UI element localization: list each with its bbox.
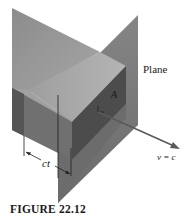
plane-label: Plane [143, 63, 168, 75]
velocity-arrowhead-icon [170, 142, 180, 149]
figure-caption: FIGURE 22.12 [10, 203, 86, 215]
box-front-left-dark-strip [12, 88, 24, 136]
wave-box-diagram: ct A v = c Plane [0, 0, 190, 222]
ct-arrowhead-left-icon [26, 152, 31, 156]
ct-label: ct [42, 157, 51, 169]
area-label: A [110, 89, 118, 100]
velocity-label: v = c [157, 152, 176, 162]
